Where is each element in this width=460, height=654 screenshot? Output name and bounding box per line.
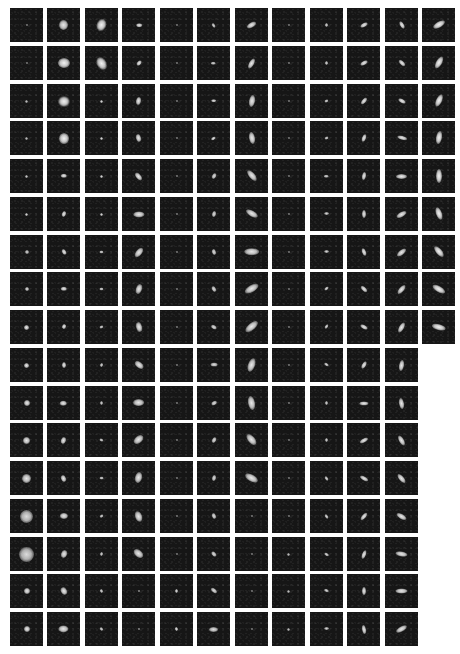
galaxy-blob: [436, 169, 442, 182]
galaxy-blob: [288, 137, 290, 139]
stamp-tile: [310, 310, 343, 344]
galaxy-blob: [176, 62, 178, 64]
stamp-tile: [347, 499, 380, 533]
stamp-tile: [272, 159, 305, 193]
stamp-tile: [385, 46, 418, 80]
stamp-tile: [385, 461, 418, 495]
stamp-tile: [85, 8, 118, 42]
stamp-tile: [347, 197, 380, 231]
stamp-tile: [235, 348, 268, 382]
galaxy-blob: [61, 174, 67, 178]
stamp-tile: [10, 310, 43, 344]
stamp-tile: [385, 386, 418, 420]
postage-stamp-grid: [0, 0, 460, 654]
stamp-tile: [197, 310, 230, 344]
galaxy-blob: [211, 475, 216, 482]
galaxy-blob: [100, 100, 103, 103]
galaxy-blob: [288, 251, 290, 253]
galaxy-blob: [138, 628, 140, 630]
stamp-tile: [347, 159, 380, 193]
stamp-tile: [160, 235, 193, 269]
galaxy-blob: [99, 626, 104, 631]
galaxy-blob: [398, 359, 405, 371]
galaxy-blob: [287, 590, 290, 593]
galaxy-blob: [132, 434, 145, 447]
stamp-tile: [160, 197, 193, 231]
galaxy-blob: [243, 319, 259, 334]
stamp-tile: [160, 84, 193, 118]
stamp-tile: [160, 461, 193, 495]
stamp-tile: [47, 310, 80, 344]
galaxy-blob: [251, 590, 253, 592]
galaxy-blob: [135, 97, 141, 106]
stamp-tile: [235, 310, 268, 344]
galaxy-blob: [360, 248, 366, 257]
stamp-tile: [160, 159, 193, 193]
galaxy-blob: [398, 21, 405, 30]
stamp-tile: [422, 121, 455, 155]
galaxy-blob: [433, 94, 444, 108]
galaxy-blob: [288, 515, 290, 517]
galaxy-blob: [135, 59, 142, 66]
stamp-tile: [347, 574, 380, 608]
stamp-tile: [385, 348, 418, 382]
galaxy-blob: [99, 477, 103, 480]
stamp-tile: [422, 197, 455, 231]
stamp-tile: [10, 8, 43, 42]
stamp-tile: [310, 423, 343, 457]
stamp-tile: [47, 197, 80, 231]
galaxy-blob: [211, 211, 216, 218]
stamp-tile: [347, 423, 380, 457]
galaxy-blob: [361, 172, 366, 181]
stamp-tile: [310, 46, 343, 80]
stamp-tile: [310, 386, 343, 420]
galaxy-blob: [431, 19, 445, 31]
stamp-tile: [10, 612, 43, 646]
galaxy-blob: [433, 56, 445, 70]
stamp-tile: [47, 499, 80, 533]
stamp-tile: [385, 499, 418, 533]
galaxy-blob: [25, 213, 28, 216]
stamp-tile: [47, 235, 80, 269]
stamp-tile: [422, 235, 455, 269]
galaxy-blob: [324, 513, 329, 519]
galaxy-blob: [138, 590, 140, 592]
stamp-tile: [347, 310, 380, 344]
galaxy-blob: [99, 438, 104, 443]
galaxy-blob: [176, 100, 178, 102]
galaxy-blob: [324, 324, 329, 330]
stamp-tile: [10, 272, 43, 306]
galaxy-blob: [251, 553, 253, 555]
stamp-tile: [310, 121, 343, 155]
galaxy-blob: [243, 282, 260, 296]
galaxy-blob: [433, 207, 443, 221]
stamp-tile: [197, 197, 230, 231]
galaxy-blob: [248, 95, 256, 108]
galaxy-blob: [134, 322, 142, 333]
galaxy-blob: [359, 436, 369, 444]
stamp-tile: [310, 197, 343, 231]
stamp-tile: [85, 159, 118, 193]
stamp-tile: [10, 84, 43, 118]
galaxy-blob: [211, 22, 216, 27]
stamp-tile: [160, 8, 193, 42]
galaxy-blob: [360, 134, 366, 143]
stamp-tile: [235, 386, 268, 420]
stamp-tile: [197, 386, 230, 420]
stamp-tile: [347, 612, 380, 646]
galaxy-blob: [288, 326, 290, 328]
stamp-tile: [197, 121, 230, 155]
galaxy-blob: [133, 510, 143, 522]
galaxy-blob: [287, 628, 290, 631]
galaxy-blob: [397, 59, 405, 67]
stamp-tile: [272, 461, 305, 495]
stamp-tile: [347, 84, 380, 118]
stamp-tile: [10, 235, 43, 269]
stamp-tile: [197, 537, 230, 571]
galaxy-blob: [288, 175, 290, 177]
stamp-tile: [10, 499, 43, 533]
stamp-tile: [160, 537, 193, 571]
stamp-tile: [272, 499, 305, 533]
stamp-tile: [85, 235, 118, 269]
stamp-tile: [235, 612, 268, 646]
